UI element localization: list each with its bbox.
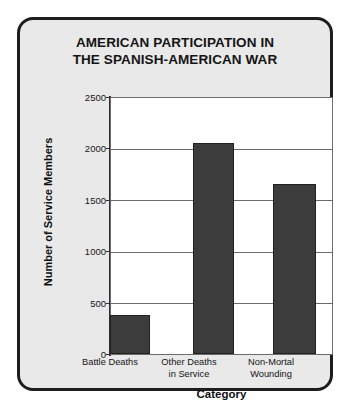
y-axis-ticks: 2500 2000 1500 1000 500 0	[62, 20, 106, 411]
bar-battle-deaths	[110, 315, 150, 354]
plot-area	[110, 97, 333, 355]
x-tick-line-1: Other Deaths	[146, 357, 232, 369]
x-tick-label-battle-deaths: Battle Deaths	[72, 357, 148, 369]
y-tick-label-2000: 2000	[66, 144, 106, 154]
y-tick-label-1500: 1500	[66, 196, 106, 206]
x-tick-label-other-deaths: Other Deaths in Service	[146, 357, 232, 380]
x-tick-label-non-mortal: Non-Mortal Wounding	[228, 357, 314, 380]
x-tick-line-2: in Service	[146, 369, 232, 381]
chart-panel: AMERICAN PARTICIPATION IN THE SPANISH-AM…	[17, 17, 333, 391]
x-tick-line-1: Non-Mortal	[228, 357, 314, 369]
y-tick-label-1000: 1000	[66, 247, 106, 257]
y-tick-label-2500: 2500	[66, 93, 106, 103]
x-axis-title: Category	[110, 388, 333, 400]
bar-other-deaths-service	[193, 143, 234, 354]
x-tick-line-1: Battle Deaths	[82, 357, 138, 367]
figure: AMERICAN PARTICIPATION IN THE SPANISH-AM…	[0, 0, 356, 411]
x-tick-line-2: Wounding	[228, 369, 314, 381]
y-axis-title: Number of Service Members	[42, 122, 54, 302]
bar-non-mortal-wounding	[273, 184, 316, 354]
y-tick-label-500: 500	[66, 299, 106, 309]
